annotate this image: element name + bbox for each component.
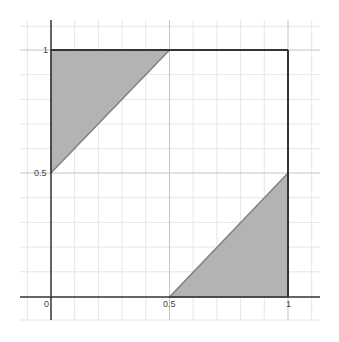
x-tick-0.5: 0.5 bbox=[163, 299, 176, 309]
lower-right-triangle bbox=[170, 173, 289, 297]
plot-area: 0 0.5 1 0.5 1 bbox=[0, 0, 339, 342]
x-tick-0: 0 bbox=[44, 299, 49, 309]
x-tick-1: 1 bbox=[286, 299, 291, 309]
y-tick-0.5: 0.5 bbox=[34, 168, 47, 178]
upper-left-triangle bbox=[51, 50, 170, 173]
y-tick-1: 1 bbox=[43, 45, 48, 55]
